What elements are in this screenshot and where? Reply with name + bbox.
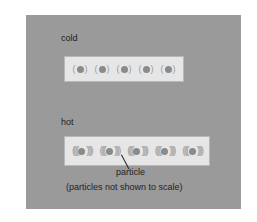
cold-particle: () [73, 65, 88, 74]
hot-particle: (((()))) [127, 146, 147, 156]
hot-particle: (((()))) [182, 146, 202, 156]
hot-particle: (((()))) [72, 146, 92, 156]
scale-caption: (particles not shown to scale) [66, 182, 183, 192]
cold-particle: () [117, 65, 132, 74]
cold-bar: () () () () () [64, 56, 184, 82]
cold-particle: () [161, 65, 176, 74]
cold-particle: () [95, 65, 110, 74]
hot-particle: (((()))) [100, 146, 120, 156]
particle-icon [121, 66, 128, 73]
particle-icon [165, 66, 172, 73]
particle-icon [99, 66, 106, 73]
diagram-panel: cold () () () () () hot (((()))) (((()))… [26, 15, 241, 209]
particle-icon [106, 148, 113, 155]
particle-icon [77, 66, 84, 73]
cold-particle: () [139, 65, 154, 74]
particle-icon [143, 66, 150, 73]
hot-label: hot [61, 117, 74, 127]
particle-icon [161, 148, 168, 155]
particle-label: particle [116, 167, 145, 177]
hot-particle: (((()))) [155, 146, 175, 156]
particle-icon [189, 148, 196, 155]
hot-bar: (((()))) (((()))) (((()))) (((()))) ((((… [64, 136, 210, 166]
particle-icon [78, 148, 85, 155]
particle-icon [133, 148, 140, 155]
cold-label: cold [61, 33, 78, 43]
